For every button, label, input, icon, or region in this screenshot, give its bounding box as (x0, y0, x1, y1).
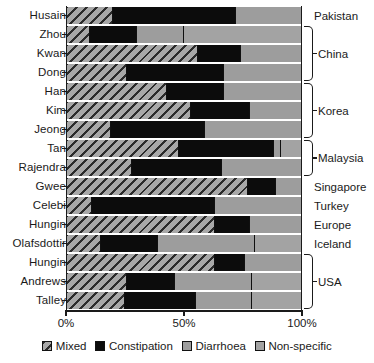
segment-constipation (111, 121, 205, 138)
chart-legend: MixedConstipationDiarrhoeaNon-specific (0, 336, 374, 356)
segment-mixed (66, 83, 167, 100)
stacked-bar (66, 273, 302, 290)
study-label: Kim (0, 101, 66, 120)
x-tick-mark (183, 310, 184, 316)
segment-diarrhoea (205, 121, 302, 138)
segment-constipation (198, 45, 240, 62)
study-label: Hungin (0, 253, 66, 272)
segment-mixed (66, 121, 111, 138)
segment-constipation (215, 216, 250, 233)
study-label: Hungin (0, 215, 66, 234)
legend-item: Constipation (95, 340, 172, 352)
legend-swatch-diarrhoea (182, 341, 192, 351)
segment-diarrhoea (215, 197, 302, 214)
stacked-bar (66, 102, 302, 119)
study-label: Tan (0, 139, 66, 158)
country-label: China (318, 48, 348, 60)
legend-label: Constipation (109, 340, 173, 352)
segment-constipation (90, 26, 137, 43)
legend-item: Mixed (42, 340, 86, 352)
segment-mixed (66, 273, 127, 290)
segment-diarrhoea (224, 64, 302, 81)
stacked-bar (66, 159, 302, 176)
segment-mixed (66, 235, 101, 252)
segment-mixed (66, 26, 90, 43)
country-brace-pointer (312, 157, 317, 158)
segment-constipation (179, 140, 273, 157)
country-brace-pointer (312, 53, 317, 54)
segment-diarrhoea (276, 178, 302, 195)
study-label: Talley (0, 291, 66, 310)
country-label: USA (318, 276, 342, 288)
segment-constipation (127, 64, 224, 81)
x-tick-label: 50% (162, 317, 206, 329)
study-label: Gwee (0, 177, 66, 196)
segment-mixed (66, 254, 215, 271)
segment-mixed (66, 64, 127, 81)
study-label: Han (0, 82, 66, 101)
segment-non-specific (281, 140, 302, 157)
legend-item: Diarrhoea (182, 340, 246, 352)
country-label: Singapore (314, 181, 366, 193)
segment-mixed (66, 216, 215, 233)
legend-item: Non-specific (255, 340, 332, 352)
x-tick-mark (65, 310, 66, 316)
segment-diarrhoea (236, 7, 302, 24)
study-label: Kwan (0, 44, 66, 63)
segment-mixed (66, 159, 132, 176)
segment-mixed (66, 45, 198, 62)
study-label: Olafsdottir (0, 234, 66, 253)
segment-constipation (127, 273, 174, 290)
segment-mixed (66, 140, 179, 157)
stacked-bar (66, 292, 302, 309)
study-label: Zhou (0, 25, 66, 44)
country-label: Europe (314, 219, 351, 231)
segment-diarrhoea (241, 45, 302, 62)
study-label: Jeong (0, 120, 66, 139)
study-label: Rajendra (0, 158, 66, 177)
x-tick-label: 0% (44, 317, 88, 329)
segment-diarrhoea (137, 26, 184, 43)
segment-diarrhoea (245, 254, 302, 271)
legend-swatch-nonspecific (255, 341, 265, 351)
segment-non-specific (252, 292, 302, 309)
country-label: Korea (318, 105, 349, 117)
segment-diarrhoea (224, 83, 302, 100)
segment-constipation (191, 102, 250, 119)
segment-constipation (113, 7, 236, 24)
legend-label: Diarrhoea (195, 340, 246, 352)
legend-label: Non-specific (268, 340, 331, 352)
segment-mixed (66, 292, 125, 309)
segment-constipation (132, 159, 222, 176)
segment-diarrhoea (250, 102, 302, 119)
legend-label: Mixed (56, 340, 87, 352)
stacked-bar (66, 26, 302, 43)
country-label: Turkey (314, 200, 349, 212)
stacked-bar (66, 235, 302, 252)
stacked-bar (66, 216, 302, 233)
country-group-annotations: PakistanChinaKoreaMalaysiaSingaporeTurke… (302, 6, 374, 316)
legend-swatch-constipation (95, 341, 105, 351)
study-label: Andrews (0, 272, 66, 291)
segment-diarrhoea (250, 216, 302, 233)
segment-constipation (248, 178, 276, 195)
segment-constipation (215, 254, 246, 271)
country-brace-pointer (312, 110, 317, 111)
segment-diarrhoea (196, 292, 253, 309)
x-tick-label: 100% (280, 317, 324, 329)
stacked-bar (66, 140, 302, 157)
segment-non-specific (255, 235, 302, 252)
segment-mixed (66, 7, 113, 24)
country-label: Iceland (314, 238, 351, 250)
segment-mixed (66, 178, 248, 195)
country-label: Pakistan (314, 10, 358, 22)
segment-constipation (92, 197, 215, 214)
segment-diarrhoea (158, 235, 255, 252)
stacked-bar (66, 254, 302, 271)
stacked-bar-chart: HusainZhouKwanDongHanKimJeongTanRajendra… (0, 0, 374, 363)
stacked-bar (66, 83, 302, 100)
study-label: Dong (0, 63, 66, 82)
stacked-bar (66, 178, 302, 195)
legend-swatch-mixed (42, 341, 52, 351)
study-label: Celebi (0, 196, 66, 215)
